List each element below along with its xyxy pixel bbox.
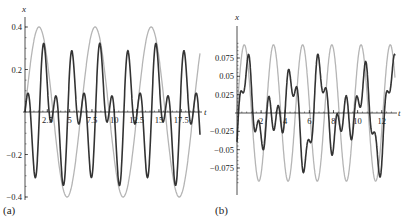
y-tick-label: −0.05 bbox=[214, 145, 234, 155]
y-axis-label: x bbox=[234, 12, 239, 22]
x-tick-label: 15 bbox=[155, 115, 164, 125]
x-tick-label: 4 bbox=[283, 116, 288, 126]
x-axis-label: t bbox=[204, 107, 207, 117]
x-tick-label: 5 bbox=[68, 115, 72, 125]
chart-figure: 2.557.51012.51517.50.40.2−0.2−0.4xt 2468… bbox=[0, 0, 410, 221]
x-tick-label: 8 bbox=[331, 116, 335, 126]
chart-panel-a: 2.557.51012.51517.50.40.2−0.2−0.4xt bbox=[7, 4, 207, 202]
x-tick-label: 12.5 bbox=[129, 115, 144, 125]
y-tick-label: 0.05 bbox=[219, 71, 234, 81]
x-tick-label: 10 bbox=[353, 116, 362, 126]
x-tick-label: 10 bbox=[110, 115, 119, 125]
x-tick-label: 17.5 bbox=[174, 115, 189, 125]
x-tick-label: 2.5 bbox=[42, 115, 53, 125]
x-tick-label: 6 bbox=[307, 116, 311, 126]
y-tick-label: −0.2 bbox=[7, 150, 22, 160]
chart-panel-b: 246810120.0750.050.025−0.025−0.05−0.075x… bbox=[210, 12, 401, 195]
x-tick-label: 12 bbox=[377, 116, 386, 126]
panel-label-a: (a) bbox=[3, 204, 16, 217]
y-tick-label: −0.075 bbox=[210, 163, 234, 173]
x-tick-label: 2 bbox=[259, 116, 263, 126]
y-tick-label: 0.025 bbox=[215, 90, 234, 100]
y-tick-label: −0.025 bbox=[210, 126, 234, 136]
panel-label-b: (b) bbox=[215, 204, 228, 217]
y-tick-label: 0.075 bbox=[215, 53, 234, 63]
x-tick-label: 7.5 bbox=[87, 115, 98, 125]
y-tick-label: −0.4 bbox=[7, 192, 23, 202]
y-tick-label: 0.4 bbox=[11, 22, 22, 32]
y-tick-label: 0.2 bbox=[11, 65, 22, 75]
x-axis-label: t bbox=[398, 108, 401, 118]
y-axis-label: x bbox=[21, 4, 26, 14]
